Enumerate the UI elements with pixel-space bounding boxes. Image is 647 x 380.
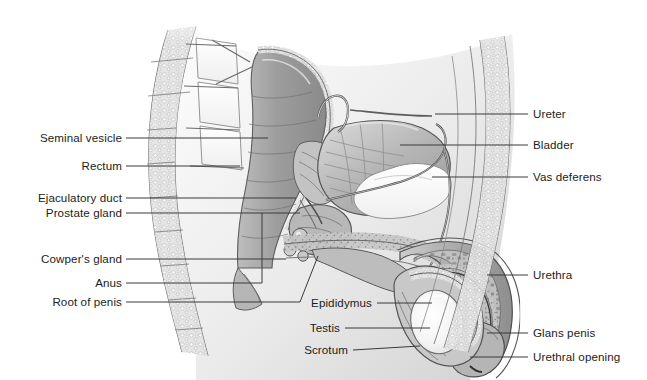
- label-bladder: Bladder: [533, 139, 574, 151]
- label-ejaculatory-duct: Ejaculatory duct: [0, 192, 122, 204]
- label-urethra: Urethra: [533, 269, 572, 281]
- label-epididymus: Epididymus: [0, 297, 372, 309]
- label-testis: Testis: [0, 322, 340, 334]
- label-rectum: Rectum: [0, 160, 122, 172]
- diagram-canvas: Seminal vesicleRectumEjaculatory ductPro…: [0, 0, 647, 380]
- label-glans-penis: Glans penis: [533, 327, 595, 339]
- label-anus: Anus: [0, 277, 122, 289]
- label-prostate-gland: Prostate gland: [0, 207, 122, 219]
- label-cowpers-gland: Cowper's gland: [0, 253, 122, 265]
- label-vas-deferens: Vas deferens: [533, 171, 602, 183]
- label-ureter: Ureter: [533, 108, 566, 120]
- label-seminal-vesicle: Seminal vesicle: [0, 132, 122, 144]
- label-scrotum: Scrotum: [0, 344, 348, 356]
- label-urethral-opening: Urethral opening: [533, 351, 620, 363]
